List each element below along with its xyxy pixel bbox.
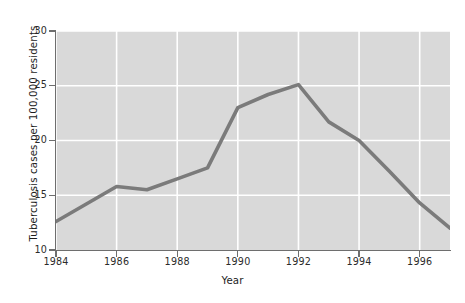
x-tick-label: 1990	[216, 256, 260, 267]
x-axis-line	[55, 250, 451, 251]
x-axis-title: Year	[0, 275, 465, 286]
x-tick-label: 1994	[337, 256, 381, 267]
plot-svg	[56, 31, 450, 250]
data-line-series	[56, 85, 450, 228]
x-tick-label: 1984	[34, 256, 78, 267]
plot-area	[56, 31, 450, 250]
x-tick-label: 1988	[155, 256, 199, 267]
y-tick-mark	[49, 85, 56, 86]
y-tick-mark	[49, 140, 56, 141]
y-tick-mark	[49, 30, 56, 31]
x-tick-label: 1992	[276, 256, 320, 267]
x-tick-label: 1996	[398, 256, 442, 267]
y-axis-title: Tuberculosis cases per 100,000 residents	[28, 19, 39, 249]
chart-figure: 1015202530 1984198619881990199219941996 …	[0, 0, 465, 303]
y-tick-mark	[49, 195, 56, 196]
x-tick-label: 1986	[95, 256, 139, 267]
